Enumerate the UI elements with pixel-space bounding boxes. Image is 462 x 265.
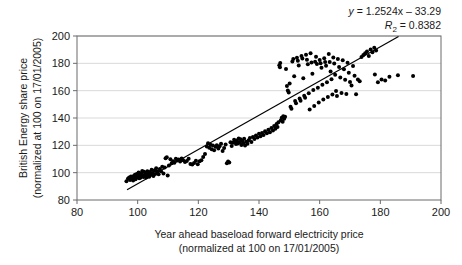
data-point [288,82,292,86]
data-point [387,75,391,79]
data-point [347,71,351,75]
data-point [307,91,311,95]
data-point [330,92,334,96]
data-point [325,80,329,84]
x-tick-labels: 80100120140160180200 [71,206,450,218]
y-tick-label: 180 [52,57,70,69]
regression-equation: y = 1.2524x – 33.29 [347,5,441,17]
x-tick-label: 140 [250,206,268,218]
data-point [335,94,339,98]
data-point [212,148,216,152]
data-point [319,66,323,70]
data-point [294,101,298,105]
x-axis-title-line2: (normalized at 100 on 17/01/2005) [179,242,340,254]
data-point [314,55,318,59]
data-point [338,75,342,79]
data-point [300,56,304,60]
data-point [317,101,321,105]
data-point [308,108,312,112]
gridlines [77,36,441,173]
data-point [322,56,326,60]
y-tick-label: 140 [52,112,70,124]
data-point [311,88,315,92]
data-point [380,78,384,82]
data-point [245,142,249,146]
data-point [304,53,308,57]
data-point [373,72,377,76]
x-tick-label: 100 [128,206,146,218]
data-point [358,79,362,83]
data-point [284,67,288,71]
data-point [303,96,307,100]
data-point [289,107,293,111]
data-point [292,74,296,78]
data-point [224,142,228,146]
data-point [336,57,340,61]
data-point [165,155,169,159]
y-tick-label: 100 [52,167,70,179]
data-point [332,62,336,66]
x-axis-title-line1: Year ahead baseload forward electricity … [154,228,363,240]
data-point [278,65,282,69]
data-point [334,89,338,93]
x-tick-label: 180 [371,206,389,218]
data-point [344,92,348,96]
scatter-chart: 80100120140160180200 8010012014016018020… [0,0,462,265]
y-axis-title-line1: British Energy share price [17,58,29,178]
trend-line [127,36,398,189]
data-point [306,62,310,66]
data-point [411,74,415,78]
data-point [309,61,313,65]
data-point [278,61,282,65]
r2-body: = 0.8382 [397,19,441,31]
data-point [320,83,324,87]
data-point [194,159,198,163]
data-point [328,60,332,64]
data-point [291,57,295,61]
data-point [222,146,226,150]
data-point [354,92,358,96]
regression-line [127,36,398,189]
chart-page: 80100120140160180200 8010012014016018020… [0,0,462,265]
data-point [227,161,231,165]
data-point [348,80,352,84]
data-point [340,91,344,95]
data-point [343,78,347,82]
data-point [383,79,387,83]
data-point [337,65,341,69]
x-tick-label: 80 [71,206,83,218]
y-tick-label: 160 [52,85,70,97]
data-point [297,64,301,68]
data-points [124,46,415,183]
data-point [310,72,314,76]
data-point [396,73,400,77]
data-point [309,51,313,55]
data-point [301,76,305,80]
x-tick-label: 200 [432,206,450,218]
y-tick-label: 200 [52,30,70,42]
data-point [296,59,300,63]
equation-body: = 1.2524x – 33.29 [354,5,441,17]
data-point [376,80,380,84]
data-point [353,74,357,78]
x-tick-label: 160 [310,206,328,218]
data-point [283,115,287,119]
data-point [161,171,165,175]
data-point [305,58,309,62]
y-tickmarks [73,36,77,200]
data-point [276,125,280,129]
data-point [187,157,191,161]
data-point [341,58,345,62]
data-point [287,91,291,95]
data-point [219,142,223,146]
data-point [329,69,333,73]
y-tick-labels: 80100120140160180200 [52,30,70,206]
data-point [350,83,354,87]
data-point [316,86,320,90]
data-point [330,77,334,81]
data-point [166,174,170,178]
data-point [299,99,303,103]
y-tick-label: 80 [58,194,70,206]
data-point [351,64,355,68]
data-point [327,52,331,56]
